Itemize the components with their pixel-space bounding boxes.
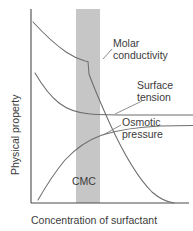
label-surface-tension-line1: Surface (137, 79, 173, 91)
label-osmotic-pressure-line1: Osmotic (122, 116, 161, 128)
label-cmc: CMC (72, 175, 96, 187)
x-axis-label: Concentration of surfactant (31, 214, 157, 226)
label-molar-conductivity-line1: Molar (113, 37, 140, 49)
leader-line-molar-conductivity (103, 49, 112, 59)
label-molar-conductivity-line2: conductivity (113, 49, 169, 61)
cmc-band (76, 9, 100, 203)
label-osmotic-pressure-line2: pressure (122, 128, 163, 140)
leader-line-osmotic-pressure (103, 125, 121, 135)
cmc-surfactant-figure: Molar conductivity Surface tension Osmot… (0, 0, 193, 231)
y-axis-label: Physical property (9, 94, 21, 175)
figure-canvas: Molar conductivity Surface tension Osmot… (0, 0, 193, 231)
label-surface-tension-line2: tension (137, 91, 171, 103)
